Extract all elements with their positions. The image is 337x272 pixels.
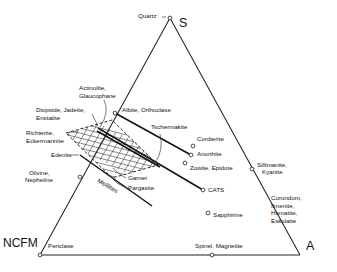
field-label-line: Eskolaite — [271, 217, 297, 224]
field-label-edenite: Edenite — [51, 151, 73, 158]
field-label-actinolite-glaucophane: Actinolite,Glaucophane — [79, 84, 116, 99]
triangle-edges — [40, 18, 300, 255]
data-point-marker — [78, 175, 82, 179]
field-label-line: Actinolite, — [79, 84, 106, 91]
field-label-line: Corundum, — [271, 194, 302, 201]
apex-label-ncfm: NCFM — [3, 236, 38, 250]
data-point-label: Cordierite — [197, 135, 224, 142]
data-point-label: Periclase — [48, 242, 74, 249]
tieline-diopside-to-cats — [98, 128, 203, 190]
data-point-marker — [168, 16, 172, 20]
field-label-tschermakite: Tschermakite — [151, 123, 188, 130]
field-label-line: Garnet — [128, 174, 147, 181]
data-point-label: Nepheline — [25, 176, 53, 183]
data-point-marker — [183, 161, 187, 165]
field-label-line: Diopside, Jadeite, — [36, 106, 85, 113]
field-label-diopside-jadeite-enstatite: Diopside, Jadeite,Enstatite — [36, 106, 85, 121]
data-point-label: Kyanite — [262, 168, 283, 175]
data-point-label: Spinel, Magnetite — [195, 242, 243, 249]
field-label-corundum-group: Corundum,Ilmenite,Hematite,Eskolaite — [271, 194, 302, 224]
field-label-line: Eckermannite — [26, 137, 64, 144]
field-label-line: Ilmenite, — [271, 202, 295, 209]
field-label-line: Pargasite — [128, 184, 155, 191]
field-label-line: Enstatite — [36, 114, 61, 121]
data-point-marker — [210, 253, 214, 257]
data-point-label: Zoisite, Epidote — [190, 164, 233, 171]
data-point-label: Sapphirine — [213, 211, 243, 218]
data-point-label: CATS — [208, 186, 224, 193]
data-point-marker — [250, 167, 254, 171]
data-point-label: Olivine, — [29, 169, 50, 176]
leader-diopside — [92, 114, 98, 126]
data-point-label: Anorthite — [197, 150, 222, 157]
data-point-label: Quartz — [138, 12, 157, 19]
data-point-marker — [113, 111, 117, 115]
data-point-marker — [201, 188, 205, 192]
apex-label-s: S — [179, 16, 187, 30]
field-label-line: Melilites — [97, 177, 120, 194]
data-point-label: Sillimanite, — [257, 161, 287, 168]
data-point-label: Albite, Orthoclase — [122, 106, 171, 113]
field-label-pargasite: Pargasite — [128, 184, 155, 191]
ternary-plot-svg: QuartzAlbite, OrthoclaseCordieriteAnorth… — [0, 0, 337, 272]
data-point-marker — [189, 153, 193, 157]
data-point-marker — [191, 144, 195, 148]
field-label-line: Tschermakite — [151, 123, 188, 130]
field-region-labels: Actinolite,GlaucophaneDiopside, Jadeite,… — [26, 84, 302, 224]
data-point-marker — [38, 253, 42, 257]
data-point-labels: QuartzAlbite, OrthoclaseCordieriteAnorth… — [25, 12, 287, 249]
ternary-diagram-figure: QuartzAlbite, OrthoclaseCordieriteAnorth… — [0, 0, 337, 272]
field-label-line: Hematite, — [271, 209, 298, 216]
apex-label-a: A — [306, 239, 315, 253]
field-label-line: Richterite, — [26, 129, 54, 136]
field-label-richterite-eckermannite: Richterite,Eckermannite — [26, 129, 64, 144]
data-point-marker — [206, 211, 210, 215]
field-label-line: Edenite — [51, 151, 73, 158]
field-label-melilites: Melilites — [97, 177, 120, 194]
field-label-line: Glaucophane — [79, 92, 116, 99]
field-label-garnet: Garnet — [128, 174, 147, 181]
